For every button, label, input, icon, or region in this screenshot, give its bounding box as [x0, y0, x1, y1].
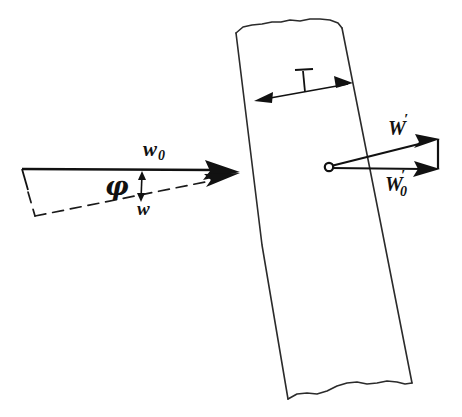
w-prime-arrowhead: [414, 134, 440, 148]
w-arrowhead: [204, 173, 240, 187]
thickness-label-stem: [303, 71, 305, 92]
thickness-arrowhead-left: [254, 92, 273, 103]
band-left-edge: [236, 33, 288, 399]
band-top-torn-edge: [236, 19, 342, 33]
label-w-zero-base: w: [143, 137, 158, 161]
label-w-mean: w: [137, 198, 150, 219]
w-zero-tail-tick: [22, 169, 28, 190]
vector-origin-circle: [325, 163, 333, 171]
thickness-label-serif: [295, 69, 313, 70]
thickness-dimension-arrow: [254, 69, 353, 103]
band-right-edge: [342, 28, 412, 383]
phi-marker-arrow-up: [138, 171, 146, 180]
w-prime-zero-vector-line: [331, 168, 423, 169]
inclined-band: [236, 19, 412, 399]
band-bottom-torn-edge: [288, 381, 412, 399]
label-w-prime-zero-subscript: 0: [400, 184, 407, 199]
left-vector-group: [22, 160, 240, 216]
label-w-zero-subscript: 0: [158, 148, 165, 163]
figure-root: w 0 w φ W ′ W ′ 0: [0, 0, 462, 417]
w-zero-vector-line: [22, 169, 215, 170]
phi-angle-marker: [137, 171, 146, 202]
label-w-mean-base: w: [137, 198, 150, 219]
thickness-arrowhead-right: [334, 76, 353, 88]
label-phi: φ: [105, 171, 129, 201]
label-w-prime-zero-mark: ′: [401, 167, 405, 183]
label-w-prime-zero: W ′ 0: [385, 167, 407, 199]
label-phi-symbol: φ: [105, 171, 129, 201]
velocity-vector-diagram: w 0 w φ W ′ W ′ 0: [0, 0, 462, 417]
label-w-zero: w 0: [143, 137, 165, 163]
label-w-prime: W ′: [388, 111, 408, 139]
w-tail-tick: [28, 192, 35, 216]
right-vector-group: [325, 134, 440, 177]
label-w-prime-mark: ′: [404, 111, 408, 127]
w-prime-vector-line: [331, 143, 423, 166]
